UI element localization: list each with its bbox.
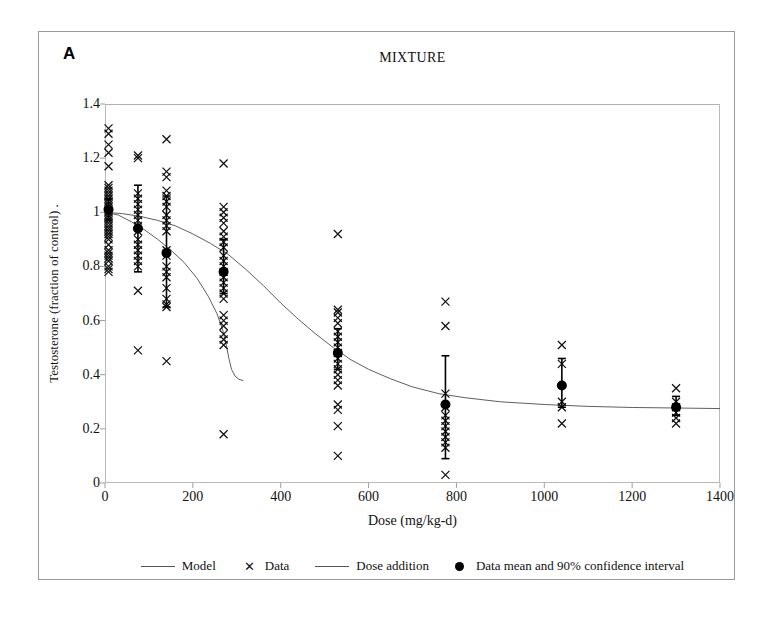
filled-circle-marker-icon (455, 562, 464, 571)
model-curve (105, 212, 720, 408)
data-point-marker (163, 135, 171, 143)
legend-label: Dose addition (356, 558, 429, 574)
data-point-marker (105, 149, 113, 157)
x-tick-label: 800 (446, 489, 467, 505)
mean-marker (162, 248, 172, 258)
legend-item-dose-addition: Dose addition (315, 558, 429, 574)
legend-item-data: ✕ Data (242, 558, 290, 574)
data-point-marker (558, 419, 566, 427)
legend-label: Model (182, 558, 216, 574)
x-tick-label: 200 (182, 489, 203, 505)
data-point-marker (334, 452, 342, 460)
data-points (105, 124, 681, 479)
data-point-marker (105, 141, 113, 149)
x-tick-label: 600 (358, 489, 379, 505)
x-tick-label: 400 (270, 489, 291, 505)
data-point-marker (672, 384, 680, 392)
legend-label: Data (265, 558, 290, 574)
x-tick-label: 1200 (618, 489, 646, 505)
mean-marker (333, 348, 343, 358)
data-point-marker (441, 471, 449, 479)
data-point-marker (334, 319, 342, 327)
data-point-marker (441, 322, 449, 330)
data-point-marker (163, 173, 171, 181)
x-tick-label: 1400 (706, 489, 734, 505)
y-axis-title: Testosterone (fraction of control) . (46, 104, 66, 483)
y-tick-label: 0 (60, 475, 100, 491)
y-tick-label: 1 (60, 204, 100, 220)
figure-root: A MIXTURE 00.20.40.60.811.21.4 020040060… (0, 0, 780, 617)
chart-legend: Model ✕ Data Dose addition Data mean and… (105, 556, 720, 576)
data-point-marker (220, 295, 228, 303)
data-point-marker (105, 162, 113, 170)
x-tick-label: 1000 (530, 489, 558, 505)
data-point-marker (558, 341, 566, 349)
data-point-marker (334, 422, 342, 430)
data-point-marker (220, 430, 228, 438)
y-tick-label: 1.2 (60, 150, 100, 166)
data-point-marker (334, 230, 342, 238)
y-tick-label: 0.4 (60, 367, 100, 383)
mean-marker (219, 267, 229, 277)
data-point-marker (334, 406, 342, 414)
data-point-marker (134, 346, 142, 354)
data-point-marker (134, 287, 142, 295)
mean-marker (133, 224, 143, 234)
y-tick-label: 1.4 (60, 96, 100, 112)
chart-canvas (105, 104, 720, 483)
data-point-marker (105, 130, 113, 138)
legend-item-model: Model (141, 558, 216, 574)
y-tick-label: 0.6 (60, 313, 100, 329)
x-axis-title: Dose (mg/kg-d) (105, 513, 720, 529)
data-point-marker (441, 298, 449, 306)
y-tick-label: 0.8 (60, 258, 100, 274)
cross-marker-icon: ✕ (242, 559, 258, 574)
mean-marker (104, 205, 114, 215)
y-tick-label: 0.2 (60, 421, 100, 437)
data-point-marker (334, 382, 342, 390)
chart-title: MIXTURE (105, 50, 720, 66)
mean-marker (557, 381, 567, 391)
x-tick-label: 0 (102, 489, 109, 505)
mean-error-bars (104, 185, 682, 458)
x-axis-tick-labels: 0200400600800100012001400 (105, 489, 720, 511)
plot-area (105, 104, 720, 483)
line-swatch-icon (141, 566, 175, 567)
data-point-marker (220, 219, 228, 227)
legend-item-data-mean: Data mean and 90% confidence interval (455, 558, 684, 574)
data-point-marker (672, 419, 680, 427)
data-point-marker (220, 160, 228, 168)
mean-marker (440, 399, 450, 409)
line-swatch-icon (315, 566, 349, 567)
mean-marker (671, 402, 681, 412)
legend-label: Data mean and 90% confidence interval (476, 558, 684, 574)
panel-letter: A (63, 44, 75, 64)
data-point-marker (163, 357, 171, 365)
